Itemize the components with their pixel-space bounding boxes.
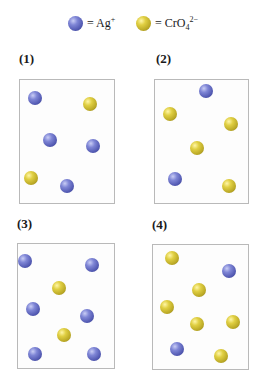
ag-ion-sphere-icon: [60, 179, 74, 193]
ag-ion-sphere-icon: [18, 254, 32, 268]
chromate-ion-sphere-icon: [224, 117, 238, 131]
panel-label-1: (1): [19, 51, 34, 67]
ag-ion-sphere-icon: [85, 258, 99, 272]
chromate-ion-sphere-icon: [226, 315, 240, 329]
legend: = Ag+ = CrO42−: [0, 13, 254, 33]
chromate-ion-sphere-icon: [24, 171, 38, 185]
ag-ion-sphere-icon: [87, 347, 101, 361]
chromate-ion-sphere-icon: [222, 179, 236, 193]
legend-label-ag: = Ag+: [87, 16, 115, 31]
ag-ion-sphere-icon: [170, 342, 184, 356]
legend-label-cro4: = CrO42−: [155, 16, 198, 31]
ag-ion-sphere-icon: [43, 133, 57, 147]
chromate-ion-sphere-icon: [160, 300, 174, 314]
chromate-ion-sphere-icon: [192, 283, 206, 297]
panel-label-4: (4): [152, 217, 167, 233]
chromate-ion-sphere-icon: [163, 107, 177, 121]
ag-ion-sphere-icon: [28, 347, 42, 361]
yellow-sphere-icon: [136, 16, 151, 31]
ag-ion-sphere-icon: [168, 172, 182, 186]
legend-item-ag: = Ag+: [68, 13, 115, 33]
ag-ion-sphere-icon: [199, 84, 213, 98]
blue-sphere-icon: [68, 16, 83, 31]
chromate-ion-sphere-icon: [214, 349, 228, 363]
chromate-ion-sphere-icon: [190, 141, 204, 155]
ag-ion-sphere-icon: [86, 139, 100, 153]
ag-ion-sphere-icon: [26, 302, 40, 316]
ag-ion-sphere-icon: [80, 309, 94, 323]
panel-label-3: (3): [17, 216, 32, 232]
ag-ion-sphere-icon: [28, 91, 42, 105]
chromate-ion-sphere-icon: [190, 317, 204, 331]
legend-item-cro4: = CrO42−: [136, 13, 198, 33]
chromate-ion-sphere-icon: [165, 251, 179, 265]
chromate-ion-sphere-icon: [52, 281, 66, 295]
chromate-ion-sphere-icon: [57, 328, 71, 342]
panel-label-2: (2): [156, 51, 171, 67]
ag-ion-sphere-icon: [222, 264, 236, 278]
chromate-ion-sphere-icon: [83, 97, 97, 111]
